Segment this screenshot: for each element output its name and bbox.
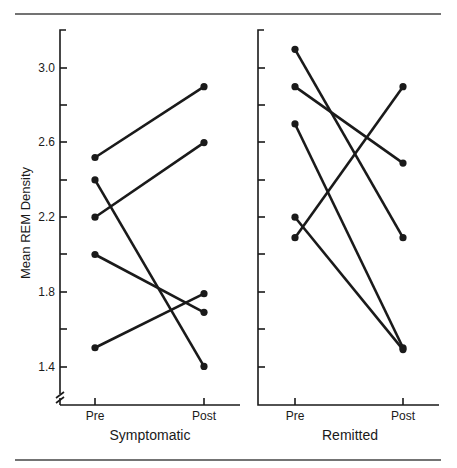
right-panel-axes [258,30,439,405]
data-point-marker [399,160,406,167]
right-x-label-pre: Pre [286,409,305,423]
left-panel-axes [56,30,240,405]
data-point-marker [291,46,298,53]
series-line [295,87,403,238]
y-tick-3.0: 3.0 [38,61,55,75]
data-point-marker [291,120,298,127]
series-line [295,87,403,163]
data-point-marker [291,83,298,90]
y-tick-1.4: 1.4 [38,360,55,374]
data-point-marker [200,363,207,370]
data-point-marker [91,214,98,221]
data-point-marker [91,251,98,258]
left-x-label-pre: Pre [86,409,105,423]
series-line [95,255,204,313]
data-point-marker [200,83,207,90]
rem-density-chart: Mean REM Density 3.0 2.6 2.2 1.8 1.4 Pre… [0,0,457,468]
right-panel-series [291,46,406,353]
data-point-marker [200,139,207,146]
data-point-marker [200,290,207,297]
right-panel-title: Remitted [322,427,378,443]
data-point-marker [91,344,98,351]
data-point-marker [399,346,406,353]
data-point-marker [200,309,207,316]
y-tick-1.8: 1.8 [38,285,55,299]
left-panel-title: Symptomatic [110,427,191,443]
left-panel-series [91,83,207,370]
data-point-marker [91,154,98,161]
series-line [95,87,204,158]
data-point-marker [291,214,298,221]
y-tick-2.2: 2.2 [38,210,55,224]
data-point-marker [91,176,98,183]
left-x-label-post: Post [192,409,217,423]
data-point-marker [291,234,298,241]
data-point-marker [399,234,406,241]
y-tick-2.6: 2.6 [38,135,55,149]
y-axis-title: Mean REM Density [18,167,33,279]
data-point-marker [399,83,406,90]
series-line [295,49,403,237]
right-x-label-post: Post [391,409,416,423]
